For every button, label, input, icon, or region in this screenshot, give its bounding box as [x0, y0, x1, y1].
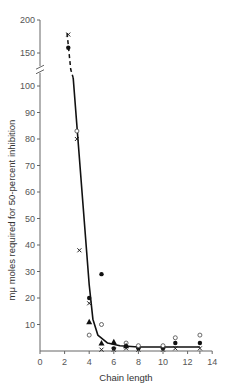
y-axis-label: mμ moles required for 50-percent inhibit…	[6, 120, 17, 301]
filled-triangle-point	[86, 319, 92, 325]
tick-labels: 02468101214102030405060708090100150200	[20, 15, 217, 367]
open-circle-point	[161, 344, 165, 348]
y-tick-label: 30	[25, 267, 35, 277]
y-tick-label: 50	[25, 214, 35, 224]
filled-circle-point	[87, 296, 91, 300]
open-circle-point	[87, 333, 91, 337]
y-tick-label: 150	[20, 48, 35, 58]
filled-circle-point	[198, 341, 202, 345]
y-tick-label: 100	[20, 81, 35, 91]
y-tick-label: 200	[20, 15, 35, 25]
open-circle-point	[173, 336, 177, 340]
x-tick-label: 2	[62, 357, 67, 367]
axes	[36, 20, 212, 351]
open-circle-point	[136, 344, 140, 348]
x-tick-label: 10	[158, 357, 168, 367]
x-tick-label: 6	[111, 357, 116, 367]
y-tick-label: 70	[25, 161, 35, 171]
y-tick-label: 80	[25, 134, 35, 144]
filled-triangle-point	[99, 340, 105, 346]
open-circle-point	[100, 323, 104, 327]
filled-circle-point	[66, 46, 70, 50]
chart: 02468101214102030405060708090100150200 C…	[0, 0, 231, 392]
open-circle-point	[198, 333, 202, 337]
filled-triangle-point	[111, 339, 117, 345]
y-tick-label: 90	[25, 108, 35, 118]
fit-curve	[67, 33, 200, 347]
x-tick-label: 12	[183, 357, 193, 367]
cross-point	[77, 248, 81, 252]
y-tick-label: 20	[25, 293, 35, 303]
y-tick-label: 60	[25, 187, 35, 197]
x-tick-label: 0	[37, 357, 42, 367]
data-points	[66, 33, 202, 352]
x-axis-label: Chain length	[99, 372, 152, 383]
filled-circle-point	[99, 272, 103, 276]
open-circle-point	[75, 129, 79, 133]
y-tick-label: 40	[25, 240, 35, 250]
filled-circle-point	[173, 341, 177, 345]
y-tick-label: 10	[25, 320, 35, 330]
x-tick-label: 4	[87, 357, 92, 367]
x-tick-label: 14	[207, 357, 217, 367]
x-tick-label: 8	[136, 357, 141, 367]
